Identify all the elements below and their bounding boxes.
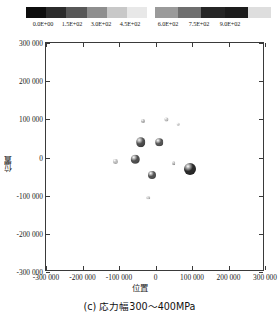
x-axis-tick xyxy=(192,266,193,270)
colorbar-tick-labels: 0.0E+001.5E+023.0E+024.5E+026.0E+027.5E+… xyxy=(0,20,279,32)
x-axis-tick xyxy=(156,43,157,47)
y-axis-tick xyxy=(259,81,263,82)
y-axis-tick xyxy=(259,43,263,44)
y-axis-tick xyxy=(46,234,50,235)
colorbar-legend: 0.0E+001.5E+023.0E+024.5E+026.0E+027.5E+… xyxy=(0,0,279,34)
y-axis-tick xyxy=(46,119,50,120)
colorbar-strip-right xyxy=(155,7,271,18)
colorbar-left-segment-2 xyxy=(66,7,86,18)
scatter-marker xyxy=(165,118,168,121)
scatter-marker xyxy=(172,161,176,165)
scatter-plot: 位置 -300 000-200 000-100 0000100 000200 0… xyxy=(0,34,279,287)
colorbar-tick-label: 9.0E+02 xyxy=(220,20,241,27)
colorbar-tick-label: 3.0E+02 xyxy=(91,20,112,27)
colorbar-left-segment-5 xyxy=(127,7,147,18)
y-axis-tick xyxy=(46,43,50,44)
colorbar-right-segment-4 xyxy=(248,7,271,18)
x-axis-tick xyxy=(192,43,193,47)
colorbar-left-segment-3 xyxy=(87,7,107,18)
scatter-marker xyxy=(146,196,149,199)
scatter-marker xyxy=(136,137,146,147)
x-axis-tick xyxy=(265,266,266,270)
y-axis-tick-label: -300 000 xyxy=(17,268,43,277)
colorbar-left-segment-0 xyxy=(26,7,46,18)
y-axis-tick xyxy=(259,196,263,197)
x-axis-tick xyxy=(229,266,230,270)
y-axis-tick-label: 0 xyxy=(39,153,43,162)
x-axis-tick xyxy=(119,43,120,47)
colorbar-left-segment-1 xyxy=(46,7,66,18)
y-axis-tick-label: 200 000 xyxy=(19,77,43,86)
y-axis-tick xyxy=(46,81,50,82)
y-axis-tick xyxy=(259,119,263,120)
colorbar-right-segment-0 xyxy=(155,7,178,18)
scatter-marker xyxy=(148,171,156,179)
y-axis-tick xyxy=(259,234,263,235)
colorbar-left-segment-4 xyxy=(107,7,127,18)
colorbar-tick-label: 4.5E+02 xyxy=(120,20,141,27)
x-axis-tick xyxy=(156,266,157,270)
x-axis-tick xyxy=(119,266,120,270)
y-axis-tick-label: -100 000 xyxy=(17,191,43,200)
y-axis-title: 位置 xyxy=(3,156,15,172)
x-axis-tick xyxy=(83,43,84,47)
scatter-marker xyxy=(155,138,163,146)
plot-frame: -300 000-200 000-100 0000100 000200 0003… xyxy=(45,42,264,271)
y-axis-tick xyxy=(46,272,50,273)
colorbar-tick-label: 7.5E+02 xyxy=(189,20,210,27)
y-axis-tick-label: 100 000 xyxy=(19,115,43,124)
x-axis-tick xyxy=(83,266,84,270)
scatter-marker xyxy=(184,163,196,175)
scatter-marker xyxy=(131,155,140,164)
x-axis-tick xyxy=(46,266,47,270)
scatter-marker xyxy=(141,119,145,123)
y-axis-tick xyxy=(46,158,50,159)
colorbar-tick-label: 6.0E+02 xyxy=(158,20,179,27)
y-axis-tick xyxy=(259,272,263,273)
colorbar-strip-left xyxy=(26,7,147,18)
y-axis-tick xyxy=(46,196,50,197)
y-axis-tick-label: -200 000 xyxy=(17,229,43,238)
colorbar-right-segment-1 xyxy=(178,7,201,18)
scatter-marker xyxy=(177,123,180,126)
colorbar-right-segment-2 xyxy=(201,7,224,18)
y-axis-tick xyxy=(259,158,263,159)
x-axis-tick xyxy=(265,43,266,47)
y-axis-tick-label: 300 000 xyxy=(19,39,43,48)
scatter-marker xyxy=(113,159,117,163)
colorbar-tick-label: 0.0E+00 xyxy=(33,20,54,27)
x-axis-tick xyxy=(229,43,230,47)
figure-caption: (c) 応力幅300～400MPa xyxy=(0,299,279,313)
colorbar-right-segment-3 xyxy=(225,7,248,18)
colorbar-tick-label: 1.5E+02 xyxy=(62,20,83,27)
x-axis-title: 位置 xyxy=(0,281,279,293)
